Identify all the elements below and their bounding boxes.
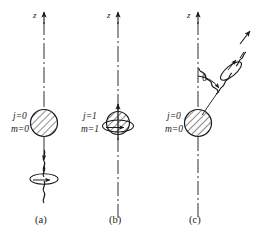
m-label-b: m=1 xyxy=(81,125,99,135)
polarization-loop-a xyxy=(30,174,58,184)
nucleus-sphere-a xyxy=(31,110,58,137)
figure-canvas xyxy=(0,0,260,241)
panel-label-c: (c) xyxy=(189,215,201,226)
z-axis-label-c: z xyxy=(187,11,191,20)
panel-a xyxy=(30,12,58,203)
panel-label-b: (b) xyxy=(109,215,121,226)
physics-figure: z j=0 m=0 (a) z j=1 m=1 (b) z j=0 m=0 θ … xyxy=(0,0,260,241)
j-label-a: j=0 xyxy=(13,112,27,122)
theta-angle-label: θ xyxy=(202,73,207,83)
j-label-c: j=0 xyxy=(167,112,181,122)
m-label-a: m=0 xyxy=(11,125,29,135)
z-axis-label-b: z xyxy=(107,11,111,20)
polarization-loop-c xyxy=(218,59,244,83)
panel-label-a: (a) xyxy=(35,215,47,226)
caption-fragment xyxy=(14,236,246,240)
j-label-b: j=1 xyxy=(83,112,97,122)
photon-wave-a xyxy=(43,150,45,203)
photon-wave-path-c xyxy=(216,31,250,94)
z-axis-label-a: z xyxy=(33,11,37,20)
panel-b xyxy=(103,12,134,218)
emission-direction-line-c xyxy=(202,92,218,115)
nucleus-sphere-c xyxy=(185,110,212,137)
panel-c xyxy=(185,12,251,218)
photon-wave-c xyxy=(195,68,222,92)
m-label-c: m=0 xyxy=(165,125,183,135)
